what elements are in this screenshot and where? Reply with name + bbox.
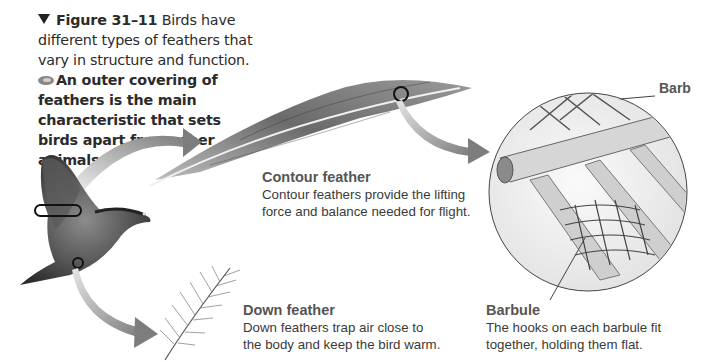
contour-feather-title: Contour feather: [262, 168, 492, 186]
down-feather-title: Down feather: [243, 301, 443, 319]
contour-feather-label: Contour feather Contour feathers provide…: [262, 168, 492, 220]
barbule-label: Barbule The hooks on each barbule fit to…: [486, 301, 696, 353]
arrow-to-magnified-view: [396, 100, 490, 164]
contour-feather-description: Contour feathers provide the lifting for…: [262, 186, 492, 220]
down-feather-icon: [160, 266, 240, 360]
barb-label: Barb: [659, 80, 691, 96]
barbule-title: Barbule: [486, 301, 696, 319]
magnified-barb-view: [489, 80, 710, 300]
arrow-to-contour-feather: [70, 128, 202, 192]
down-feather-label: Down feather Down feathers trap air clos…: [243, 301, 443, 353]
down-feather-description: Down feathers trap air close to the body…: [243, 319, 443, 353]
barbule-description: The hooks on each barbule fit together, …: [486, 319, 696, 353]
arrow-to-down-feather: [72, 268, 158, 348]
